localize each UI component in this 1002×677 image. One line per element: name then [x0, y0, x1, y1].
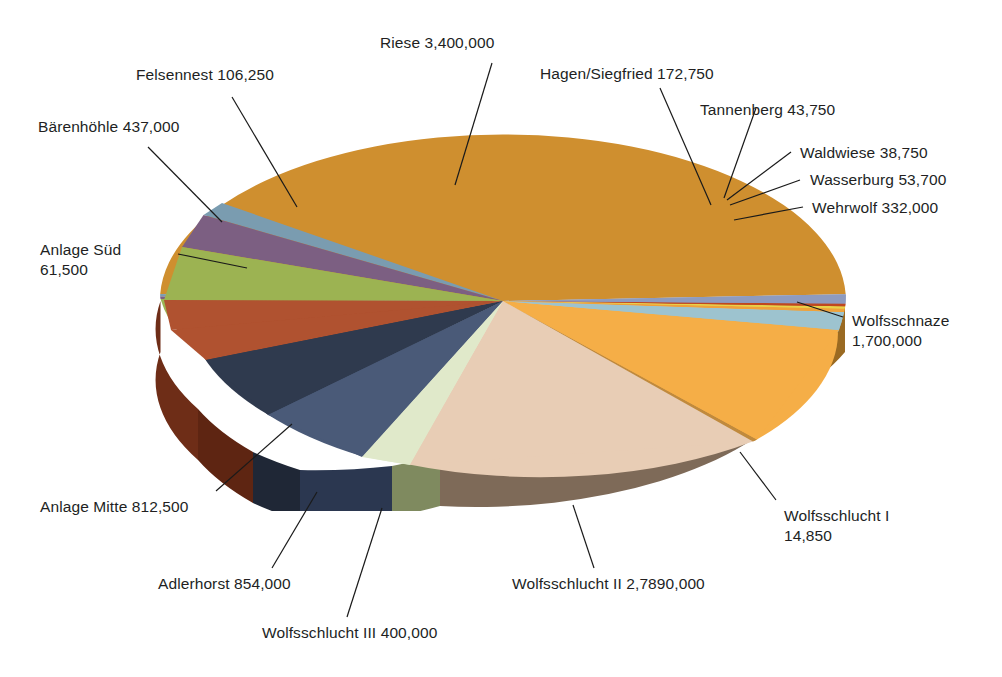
label-tannenberg: Tannenberg 43,750 [700, 100, 835, 120]
leader-wolfsschlucht-1 [740, 452, 776, 500]
label-wolfsschnaze: Wolfsschnaze 1,700,000 [852, 311, 949, 351]
label-hagen-siegfried: Hagen/Siegfried 172,750 [540, 64, 714, 84]
label-baerenhoehle: Bärenhöhle 437,000 [38, 117, 179, 137]
leader-wolfsschlucht-2 [573, 505, 594, 568]
label-wasserburg: Wasserburg 53,700 [810, 170, 946, 190]
label-wehrwolf: Wehrwolf 332,000 [812, 198, 938, 218]
label-felsennest: Felsennest 106,250 [136, 65, 274, 85]
side-adlerhorst [300, 466, 392, 521]
leader-wolfsschlucht-3 [347, 508, 382, 617]
pie-chart: Riese 3,400,000 Felsennest 106,250 Bären… [0, 0, 1002, 677]
label-anlage-mitte: Anlage Mitte 812,500 [40, 497, 189, 517]
label-wolfsschlucht-1: Wolfsschlucht I 14,850 [784, 506, 889, 546]
label-wolfsschlucht-3: Wolfsschlucht III 400,000 [262, 623, 437, 643]
label-anlage-sued: Anlage Süd 61,500 [40, 240, 121, 280]
label-adlerhorst: Adlerhorst 854,000 [158, 574, 291, 594]
leader-baerenhoehle [148, 147, 222, 222]
label-wolfsschlucht-2: Wolfsschlucht II 2,7890,000 [512, 574, 705, 594]
side-anlage-mitte-a [198, 409, 253, 503]
label-waldwiese: Waldwiese 38,750 [800, 143, 928, 163]
label-riese: Riese 3,400,000 [380, 33, 494, 53]
side-anlage-mitte [253, 452, 300, 521]
